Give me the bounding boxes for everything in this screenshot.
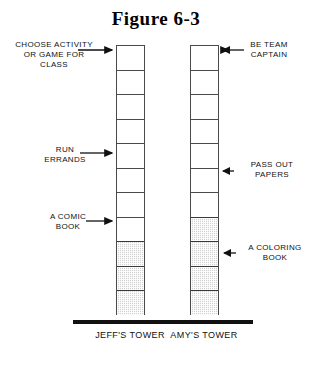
tower-jeff-block-5 [117, 143, 144, 168]
tower-amy-block-9 [191, 241, 218, 266]
tower-amy-block-5 [191, 143, 218, 168]
tower-jeff-block-1 [117, 45, 144, 70]
arrow-be-team-captain-head [222, 46, 230, 54]
callout-label-pass-out-papers: PASS OUT PAPERS [238, 160, 306, 180]
callout-label-choose-activity: CHOOSE ACTIVITY OR GAME FOR CLASS [8, 40, 100, 70]
tower-amy-block-6 [191, 168, 218, 193]
tower-jeff-block-11 [117, 290, 144, 315]
tower-jeff-block-2 [117, 70, 144, 95]
figure-title: Figure 6-3 [0, 8, 312, 30]
tower-amy-block-11 [191, 290, 218, 315]
tower-amy-block-1 [191, 45, 218, 70]
callout-label-coloring-book: A COLORING BOOK [240, 243, 310, 263]
callout-label-comic-book: A COMIC BOOK [36, 212, 100, 232]
arrow-coloring-book-head [223, 249, 231, 257]
arrow-pass-out-papers-head [222, 167, 230, 175]
tower-amy-block-4 [191, 119, 218, 144]
tower-jeff-block-8 [117, 217, 144, 242]
tower-jeff-block-10 [117, 266, 144, 291]
tower-jeff-block-4 [117, 119, 144, 144]
tower-amy-block-2 [191, 70, 218, 95]
callout-label-run-errands: RUN ERRANDS [30, 145, 100, 165]
tower-amy [190, 45, 219, 315]
figure-container: Figure 6-3 JEFF'S TOWER AMY'S TOWER CHOO… [0, 0, 312, 368]
tower-jeff-block-3 [117, 94, 144, 119]
tower-amy-block-7 [191, 192, 218, 217]
tower-jeff [116, 45, 145, 315]
callout-label-be-team-captain: BE TEAM CAPTAIN [232, 40, 306, 60]
tower-amy-block-10 [191, 266, 218, 291]
tower-amy-block-3 [191, 94, 218, 119]
ground-line [73, 320, 253, 324]
tower-jeff-block-7 [117, 192, 144, 217]
tower-jeff-block-6 [117, 168, 144, 193]
tower-amy-block-8 [191, 217, 218, 242]
tower-jeff-block-9 [117, 241, 144, 266]
tower-caption-amy: AMY'S TOWER [159, 330, 249, 341]
